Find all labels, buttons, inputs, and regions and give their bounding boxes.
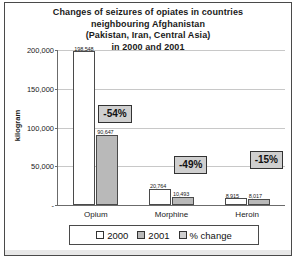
y-axis-label: kilogram [13,91,22,161]
legend-item-2000: 2000 [96,230,128,241]
bar-group-morphine: 20,76410,493Morphine [134,50,210,205]
pct-change-box-opium: -54% [98,105,131,123]
legend-swatch-2000 [96,231,104,239]
legend-label-2000: 2000 [107,230,128,241]
bar-2001-opium[interactable]: 90,647 [96,135,118,205]
legend-swatch-pct-change [179,231,187,239]
bar-2000-heroin[interactable]: 8,915 [225,198,247,205]
legend-item-2001: 2001 [137,230,169,241]
page-edge-artifact [5,250,291,255]
legend-label-2001: 2001 [148,230,169,241]
chart-legend: 2000 2001 % change [69,225,259,245]
bar-value-2001-morphine: 10,493 [173,191,189,197]
chart-title-line-3: (Pakistan, Iran, Central Asia) [5,30,291,42]
legend-item-pct-change: % change [179,230,232,241]
y-axis-tick-label: 50,000 [31,162,54,171]
y-axis-tick-label: 100,000 [27,123,54,132]
bar-value-2001-opium: 90,647 [97,129,113,135]
legend-label-pct-change: % change [190,230,232,241]
bar-group-heroin: 8,9158,017Heroin [209,50,285,205]
y-axis-tick-label: - [52,201,55,210]
bar-2001-heroin[interactable]: 8,017 [248,199,270,205]
y-axis-tick-label: 150,000 [27,84,54,93]
bar-value-2000-opium: 198,548 [74,46,93,52]
chart-title-line-1: Changes of seizures of opiates in countr… [5,7,291,19]
x-axis-label-opium: Opium [58,210,134,219]
bar-value-2001-heroin: 8,017 [249,193,262,199]
bar-2000-morphine[interactable]: 20,764 [149,189,171,205]
chart-title-line-2: neighbouring Afghanistan [5,19,291,31]
bar-2000-opium[interactable]: 198,548 [73,51,95,205]
pct-change-box-heroin: -15% [250,151,283,169]
bar-value-2000-morphine: 20,764 [150,183,166,189]
plot-area: -50,000100,000150,000200,000198,54890,64… [57,50,285,206]
y-axis-tick-mark [55,205,58,206]
chart-figure: Changes of seizures of opiates in countr… [4,2,292,256]
y-axis-tick-label: 200,000 [27,46,54,55]
x-axis-label-morphine: Morphine [134,210,210,219]
bar-2001-morphine[interactable]: 10,493 [172,197,194,205]
pct-change-box-morphine: -49% [174,156,207,174]
bar-group-opium: 198,54890,647Opium [58,50,134,205]
x-axis-label-heroin: Heroin [209,210,285,219]
bar-value-2000-heroin: 8,915 [226,193,239,199]
legend-swatch-2001 [137,231,145,239]
